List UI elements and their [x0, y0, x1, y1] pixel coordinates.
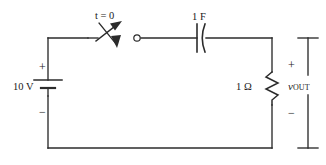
resistor-zigzag	[266, 72, 278, 105]
output-voltage-subscript: OUT	[293, 83, 310, 92]
source-minus-sign: −	[39, 106, 46, 118]
circuit-diagram: t = 0 1 F 10 V 1 Ω + − + − vOUT	[0, 0, 326, 165]
source-plus-sign: +	[39, 61, 46, 73]
switch-open-node	[134, 35, 140, 41]
switch-arrowhead-down	[111, 35, 121, 48]
capacitor-symbol	[197, 24, 205, 52]
output-voltage-label: vOUT	[288, 81, 310, 92]
switch-time-label: t = 0	[95, 11, 114, 22]
capacitor-value-label: 1 F	[192, 12, 206, 23]
battery-symbol	[34, 80, 62, 96]
output-minus-sign: −	[288, 107, 295, 119]
output-terminal-pair	[298, 38, 318, 148]
resistor-symbol	[266, 72, 278, 105]
switch-symbol[interactable]	[88, 21, 140, 48]
capacitor-curved-plate	[202, 24, 205, 52]
circuit-schematic-svg	[0, 0, 326, 165]
resistor-value-label: 1 Ω	[236, 82, 252, 93]
output-plus-sign: +	[288, 59, 295, 71]
source-value-label: 10 V	[13, 82, 34, 93]
